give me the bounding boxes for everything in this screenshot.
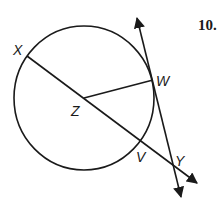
problem-number: 10.	[198, 17, 217, 33]
label-z: Z	[70, 103, 80, 119]
radius-zw	[84, 80, 153, 98]
label-y: Y	[175, 153, 186, 169]
geometry-figure: X W Z V Y 10.	[0, 0, 220, 208]
label-v: V	[136, 149, 147, 165]
label-x: X	[12, 42, 23, 58]
label-w: W	[156, 73, 171, 89]
tangent-line-wy	[137, 18, 181, 197]
